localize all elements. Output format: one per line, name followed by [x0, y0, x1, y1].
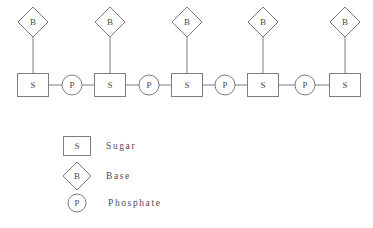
phosphate-label: P: [302, 80, 307, 90]
base-label: B: [342, 17, 348, 27]
legend-base-symbol: B: [74, 171, 80, 181]
legend-phosphate-label: Phosphate: [108, 198, 161, 208]
sugar-label: S: [184, 80, 189, 90]
sugar-label: S: [260, 80, 265, 90]
base-label: B: [260, 17, 266, 27]
phosphate-label: P: [146, 80, 151, 90]
diagram-canvas: PPPP SSSSS BBBBB SSugarBBasePPhosphate: [0, 0, 373, 228]
legend-sugar-label: Sugar: [106, 141, 136, 151]
base-group: BBBBB: [18, 7, 360, 37]
base-label: B: [30, 17, 36, 27]
legend-base-label: Base: [106, 171, 131, 181]
sugar-label: S: [30, 80, 35, 90]
phosphate-label: P: [222, 80, 227, 90]
legend-phosphate-symbol: P: [74, 198, 79, 208]
phosphate-label: P: [69, 80, 74, 90]
sugar-label: S: [342, 80, 347, 90]
base-label: B: [107, 17, 113, 27]
dna-backbone-diagram: PPPP SSSSS BBBBB SSugarBBasePPhosphate: [0, 0, 373, 228]
legend-sugar-symbol: S: [74, 141, 79, 151]
base-label: B: [184, 17, 190, 27]
legend: SSugarBBasePPhosphate: [63, 137, 161, 213]
sugar-label: S: [107, 80, 112, 90]
